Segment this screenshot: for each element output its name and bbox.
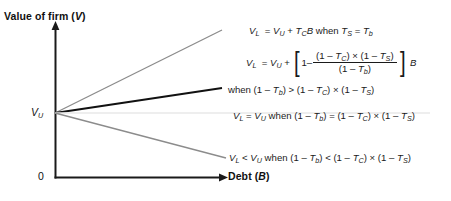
y-axis xyxy=(52,21,60,179)
equation-condition-2: when (1 – Tb) > (1 – TC) × (1 – TS) xyxy=(228,84,374,95)
trailing-b: B xyxy=(410,57,416,68)
x-axis xyxy=(55,174,229,182)
fraction-numerator: (1 – TC) × (1 – TS) xyxy=(313,50,396,62)
equation-label-4: VL < VU when (1 – Tb) < (1 – TC) × (1 – … xyxy=(229,152,411,163)
series-line-down xyxy=(55,113,226,158)
y-axis-title: Value of firm (V) xyxy=(4,10,86,22)
y-axis-tick-vu: VU xyxy=(31,106,43,118)
x-axis-title: Debt (B) xyxy=(228,170,270,182)
equation-label-1: VL = VU + TCB when TS = Tb xyxy=(249,25,373,36)
right-bracket: ] xyxy=(400,54,406,71)
origin-label: 0 xyxy=(38,170,44,182)
fraction-denominator: (1 – Tb) xyxy=(336,63,374,75)
equation-label-3: VL = VU when (1 – Tb) = (1 – TC) × (1 – … xyxy=(233,110,415,121)
plot-area xyxy=(0,0,451,201)
fraction: (1 – TC) × (1 – TS) (1 – Tb) xyxy=(313,50,396,74)
capital-structure-diagram: Value of firm (V) Debt (B) VU 0 VL = VU … xyxy=(0,0,451,201)
equation-label-2: VL = VU + [ 1– (1 – TC) × (1 – TS) (1 – … xyxy=(246,50,417,74)
left-bracket: [ xyxy=(294,54,300,71)
